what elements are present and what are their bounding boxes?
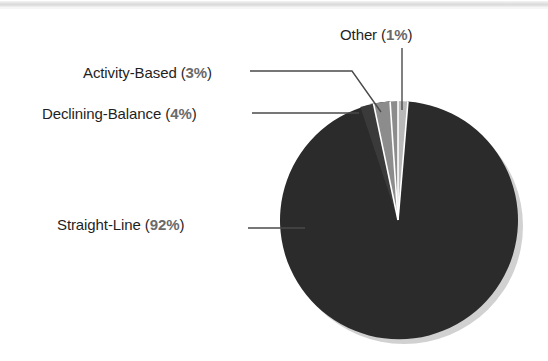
pie-label-other-close-paren: )	[407, 26, 412, 43]
pie-chart: Other (1%) Activity-Based (3%) Declining…	[0, 0, 548, 361]
chart-page: Other (1%) Activity-Based (3%) Declining…	[0, 0, 548, 361]
pie-label-activity-based: Activity-Based (3%)	[83, 64, 212, 81]
pie-label-declining-balance-close-paren: )	[192, 105, 197, 122]
pie-chart-canvas	[0, 0, 548, 361]
pie-label-activity-based-open-paren: (	[177, 64, 186, 81]
pie-label-straight-line: Straight-Line (92%)	[57, 216, 184, 233]
pie-label-straight-line-name: Straight-Line	[57, 216, 141, 233]
pie-label-declining-balance-percent: 4%	[170, 105, 191, 122]
pie-label-other-percent: 1%	[386, 26, 407, 43]
pie-label-straight-line-percent: 92%	[150, 216, 180, 233]
pie-label-activity-based-close-paren: )	[207, 64, 212, 81]
leader-line-activity-based	[250, 71, 381, 112]
pie-label-other-open-paren: (	[377, 26, 386, 43]
pie-label-straight-line-open-paren: (	[141, 216, 150, 233]
pie-label-declining-balance-open-paren: (	[161, 105, 170, 122]
pie-label-straight-line-close-paren: )	[179, 216, 184, 233]
pie-label-activity-based-name: Activity-Based	[83, 64, 177, 81]
pie-label-other-name: Other	[340, 26, 377, 43]
pie-label-other: Other (1%)	[340, 26, 412, 43]
pie-label-declining-balance: Declining-Balance (4%)	[42, 105, 197, 122]
pie-label-activity-based-percent: 3%	[186, 64, 207, 81]
pie-label-declining-balance-name: Declining-Balance	[42, 105, 161, 122]
